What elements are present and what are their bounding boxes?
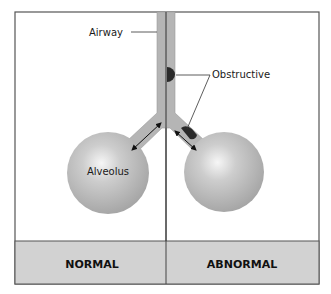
alveolus-label: Alveolus [87,166,129,177]
obstructive-label: Obstructive [212,69,270,80]
alveolus-abnormal [184,132,264,212]
diagram-canvas: Airway Obstructive Alveolus NORMAL ABNOR… [0,0,331,294]
panel-label-abnormal: ABNORMAL [207,258,277,271]
panel-label-normal: NORMAL [65,258,119,271]
airway-label: Airway [89,27,123,38]
